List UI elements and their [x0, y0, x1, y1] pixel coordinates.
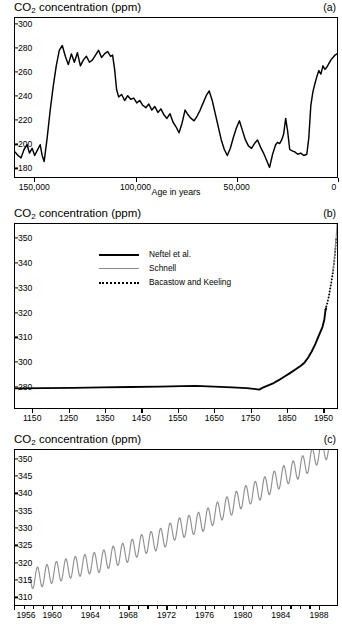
panel-a-axis-title: CO2 concentration (ppm) — [14, 0, 141, 16]
panel-a-series-svg — [15, 18, 337, 177]
panel-b-tag: (b) — [323, 206, 336, 221]
x-tick-mark — [338, 178, 339, 182]
x-tick-mark-minor — [186, 606, 187, 609]
x-tick-label: 1650 — [205, 413, 224, 423]
panel-c: CO2 concentration (ppm) (c) 350345340335… — [0, 432, 342, 630]
panel-a: CO2 concentration (ppm) (a) 300280260240… — [0, 0, 342, 206]
panel-a-x-axis: Age in years 150,000100,00050,0000 — [14, 178, 338, 200]
x-tick-mark-minor — [290, 606, 291, 609]
legend-label: Bacastow and Keeling — [149, 276, 231, 289]
x-tick-mark-minor — [24, 606, 25, 609]
x-tick-mark-minor — [233, 606, 234, 609]
x-tick-mark-minor — [62, 606, 63, 609]
x-tick-label: 1956 — [16, 610, 35, 620]
panel-a-x-axis-label: Age in years — [14, 187, 338, 197]
x-tick-mark-minor — [281, 606, 282, 609]
x-tick-label: 1976 — [195, 610, 214, 620]
panel-c-header: CO2 concentration (ppm) (c) — [14, 432, 338, 450]
panel-a-plot-area — [14, 18, 338, 178]
panel-c-x-axis: 195619601964196819721976198019841988 — [14, 606, 338, 628]
x-tick-label: 1980 — [233, 610, 252, 620]
panel-b-title-subscript: 2 — [31, 212, 35, 221]
x-tick-mark-minor — [252, 606, 253, 609]
x-tick-mark-minor — [319, 606, 320, 609]
x-tick-mark-minor — [81, 606, 82, 609]
panel-b-series-thin-gray — [333, 224, 337, 272]
panel-c-series-svg — [15, 450, 337, 605]
co2-concentration-figure: CO2 concentration (ppm) (a) 300280260240… — [0, 0, 342, 630]
x-tick-label: 1972 — [157, 610, 176, 620]
x-tick-mark-minor — [195, 606, 196, 609]
x-tick-label: 50,000 — [224, 182, 250, 192]
x-tick-mark-minor — [166, 606, 167, 609]
x-tick-mark-minor — [52, 606, 53, 609]
x-tick-mark-minor — [176, 606, 177, 609]
x-tick-label: 1250 — [59, 413, 78, 423]
x-tick-mark-minor — [71, 606, 72, 609]
panel-c-co2-monthly-line — [30, 450, 331, 588]
panel-a-co2-line — [15, 45, 337, 167]
panel-c-plot-area — [14, 450, 338, 606]
x-tick-label: 1988 — [309, 610, 328, 620]
panel-c-title-rest: concentration (ppm) — [36, 433, 141, 445]
panel-b-x-axis: 115012501350145015501650175018501950 — [14, 409, 338, 431]
x-tick-mark-minor — [157, 606, 158, 609]
panel-b: CO2 concentration (ppm) (b) Neftel et al… — [0, 206, 342, 432]
panel-b-plot-wrap: Neftel et al.SchnellBacastow and Keeling… — [14, 224, 338, 409]
legend-label: Schnell — [149, 262, 176, 275]
panel-a-plot-wrap: 300280260240220200180 — [14, 18, 338, 178]
x-tick-mark-minor — [100, 606, 101, 609]
x-tick-label: 1450 — [132, 413, 151, 423]
x-tick-label: 1964 — [81, 610, 100, 620]
x-tick-label: 1950 — [314, 413, 333, 423]
x-tick-mark-minor — [271, 606, 272, 609]
x-tick-label: 1850 — [277, 413, 296, 423]
x-tick-mark-minor — [109, 606, 110, 609]
legend-label: Neftel et al. — [149, 248, 191, 261]
legend-swatch-solid — [99, 254, 139, 256]
panel-b-series-solid — [15, 308, 326, 389]
x-tick-label: 100,000 — [120, 182, 151, 192]
panel-b-series-dotted — [325, 238, 336, 310]
x-tick-mark-minor — [128, 606, 129, 609]
panel-a-title-co: CO — [14, 1, 31, 13]
panel-a-header: CO2 concentration (ppm) (a) — [14, 0, 338, 18]
x-tick-mark-minor — [90, 606, 91, 609]
panel-a-title-rest: concentration (ppm) — [36, 1, 141, 13]
x-tick-label: 1960 — [43, 610, 62, 620]
x-tick-mark-minor — [214, 606, 215, 609]
panel-a-title-subscript: 2 — [31, 6, 35, 15]
x-tick-mark-minor — [224, 606, 225, 609]
panel-b-title-rest: concentration (ppm) — [36, 207, 141, 219]
x-tick-mark-minor — [14, 606, 15, 609]
x-tick-label: 1550 — [168, 413, 187, 423]
panel-c-plot-wrap: 350345340335330325320315310 — [14, 450, 338, 606]
x-tick-label: 1984 — [271, 610, 290, 620]
panel-c-axis-title: CO2 concentration (ppm) — [14, 432, 141, 448]
panel-c-title-subscript: 2 — [31, 438, 35, 447]
x-tick-mark-minor — [262, 606, 263, 609]
panel-c-tag: (c) — [324, 432, 336, 447]
x-tick-mark-minor — [138, 606, 139, 609]
x-tick-label: 150,000 — [19, 182, 50, 192]
x-tick-mark-minor — [243, 606, 244, 609]
x-tick-label: 1968 — [119, 610, 138, 620]
panel-c-title-co: CO — [14, 433, 31, 445]
x-tick-mark-minor — [43, 606, 44, 609]
x-tick-label: 0 — [332, 182, 337, 192]
panel-a-tag: (a) — [323, 0, 336, 15]
panel-b-title-co: CO — [14, 207, 31, 219]
x-tick-mark-minor — [205, 606, 206, 609]
panel-b-axis-title: CO2 concentration (ppm) — [14, 206, 141, 222]
x-tick-mark-minor — [119, 606, 120, 609]
x-tick-label: 1150 — [23, 413, 41, 423]
panel-b-plot-area: Neftel et al.SchnellBacastow and Keeling — [14, 224, 338, 409]
x-tick-label: 1350 — [95, 413, 114, 423]
legend-swatch-thin-gray — [99, 268, 139, 269]
x-tick-mark-minor — [300, 606, 301, 609]
x-tick-mark-minor — [309, 606, 310, 609]
panel-b-header: CO2 concentration (ppm) (b) — [14, 206, 338, 224]
x-tick-label: 1750 — [241, 413, 260, 423]
legend-swatch-dotted — [99, 282, 139, 284]
x-tick-mark-minor — [147, 606, 148, 609]
